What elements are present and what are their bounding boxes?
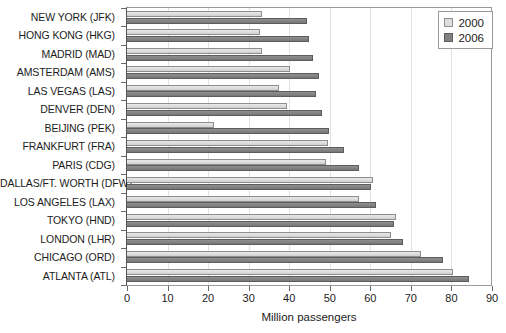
bar-chart: NEW YORK (JFK)HONG KONG (HKG)MADRID (MAD… <box>0 0 506 333</box>
bar-2006 <box>127 165 359 171</box>
x-axis-tick-label: 0 <box>107 292 147 304</box>
y-axis-tick <box>121 137 126 138</box>
bar-2006 <box>127 55 313 61</box>
y-axis-category-label: HONG KONG (HKG) <box>0 26 121 44</box>
y-axis-category-label: ATLANTA (ATL) <box>0 267 121 285</box>
y-axis-category-label: LAS VEGAS (LAS) <box>0 82 121 100</box>
bar-row <box>127 119 492 137</box>
y-axis-tick <box>121 100 126 101</box>
y-axis-tick <box>121 45 126 46</box>
y-axis-tick <box>121 211 126 212</box>
y-axis-tick <box>121 82 126 83</box>
bar-2000 <box>127 122 214 128</box>
x-axis-tick-label: 50 <box>310 292 350 304</box>
y-axis-category-label: AMSTERDAM (AMS) <box>0 63 121 81</box>
bar-row <box>127 137 492 155</box>
y-axis-tick <box>121 285 126 286</box>
bar-2000 <box>127 66 290 72</box>
bar-2006 <box>127 147 344 153</box>
bar-2006 <box>127 276 469 282</box>
bar-row <box>127 248 492 266</box>
y-axis-category-label: TOKYO (HND) <box>0 211 121 229</box>
bar-2000 <box>127 29 260 35</box>
bar-2000 <box>127 159 326 165</box>
x-axis-tick <box>208 286 209 291</box>
bar-2006 <box>127 257 443 263</box>
bar-2006 <box>127 202 376 208</box>
legend-label-2006: 2006 <box>458 32 484 44</box>
bar-row <box>127 229 492 247</box>
legend-swatch-2006-icon <box>444 33 453 42</box>
bar-2006 <box>127 110 322 116</box>
x-axis-tick <box>411 286 412 291</box>
y-axis-category-label: FRANKFURT (FRA) <box>0 137 121 155</box>
y-axis-category-label: PARIS (CDG) <box>0 156 121 174</box>
y-axis-category-label: MADRID (MAD) <box>0 45 121 63</box>
bar-row <box>127 266 492 284</box>
bar-2000 <box>127 140 328 146</box>
y-axis-tick <box>121 267 126 268</box>
bar-2006 <box>127 239 403 245</box>
bar-row <box>127 63 492 81</box>
bar-2006 <box>127 18 307 24</box>
bar-2006 <box>127 221 394 227</box>
y-axis-category-label: CHICAGO (ORD) <box>0 248 121 266</box>
bar-row <box>127 174 492 192</box>
bar-2000 <box>127 177 373 183</box>
bar-2006 <box>127 36 309 42</box>
x-axis-title: Million passengers <box>126 311 492 323</box>
y-axis-labels: NEW YORK (JFK)HONG KONG (HKG)MADRID (MAD… <box>0 8 121 285</box>
y-axis-tick <box>121 63 126 64</box>
y-axis-category-label: LOS ANGELES (LAX) <box>0 193 121 211</box>
y-axis-tick <box>121 193 126 194</box>
x-axis-tick <box>127 286 128 291</box>
y-axis-tick <box>121 174 126 175</box>
bar-2000 <box>127 85 279 91</box>
x-axis-tick <box>370 286 371 291</box>
y-axis-category-label: NEW YORK (JFK) <box>0 8 121 26</box>
legend: 2000 2006 <box>438 11 493 49</box>
bar-2000 <box>127 251 421 257</box>
y-axis-tick <box>121 248 126 249</box>
bar-2006 <box>127 184 371 190</box>
x-axis-tick <box>249 286 250 291</box>
x-axis-tick-label: 80 <box>431 292 471 304</box>
page-bottom-edge <box>0 325 506 333</box>
x-axis-tick <box>168 286 169 291</box>
bar-rows <box>127 8 492 285</box>
bar-row <box>127 211 492 229</box>
x-axis-tick-label: 40 <box>269 292 309 304</box>
bar-row <box>127 82 492 100</box>
bar-2000 <box>127 196 359 202</box>
legend-item-2000: 2000 <box>444 15 484 30</box>
bar-row <box>127 8 492 26</box>
x-axis-tick-label: 20 <box>188 292 228 304</box>
x-axis-tick <box>451 286 452 291</box>
legend-item-2006: 2006 <box>444 30 484 45</box>
y-axis-category-label: DALLAS/FT. WORTH (DFW) <box>0 174 121 192</box>
y-axis-tick <box>121 156 126 157</box>
bar-2000 <box>127 232 391 238</box>
bar-2000 <box>127 11 262 17</box>
y-axis-tick <box>121 119 126 120</box>
bar-2000 <box>127 48 262 54</box>
x-axis-tick <box>289 286 290 291</box>
y-axis-tick <box>121 26 126 27</box>
bar-2000 <box>127 214 396 220</box>
legend-swatch-2000-icon <box>444 18 453 27</box>
bar-row <box>127 100 492 118</box>
legend-label-2000: 2000 <box>458 17 484 29</box>
x-axis-tick-label: 10 <box>148 292 188 304</box>
x-axis-tick <box>330 286 331 291</box>
bar-row <box>127 45 492 63</box>
y-axis-tick <box>121 8 126 9</box>
y-axis-category-label: DENVER (DEN) <box>0 100 121 118</box>
bar-2006 <box>127 73 319 79</box>
bar-2000 <box>127 103 287 109</box>
x-axis-tick-label: 30 <box>229 292 269 304</box>
bar-row <box>127 156 492 174</box>
y-axis-category-label: BEIJING (PEK) <box>0 119 121 137</box>
x-axis-tick <box>492 286 493 291</box>
y-axis-tick <box>121 230 126 231</box>
y-axis-category-label: LONDON (LHR) <box>0 230 121 248</box>
